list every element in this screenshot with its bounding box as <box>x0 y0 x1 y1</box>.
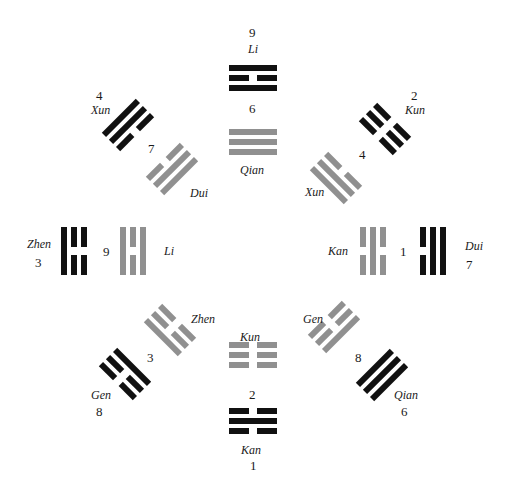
label-s-inner-number: 2 <box>249 388 256 401</box>
trigram-outer-ne <box>359 103 411 155</box>
label-nw-inner-name: Dui <box>190 187 208 199</box>
trigram-inner-se <box>308 301 360 353</box>
trigram-layer <box>0 0 506 491</box>
label-sw-number: 8 <box>96 405 103 418</box>
label-n-name: Li <box>248 43 258 55</box>
label-e-number: 7 <box>466 258 473 271</box>
label-se-inner-number: 8 <box>355 351 362 364</box>
label-e-inner-name: Kan <box>328 245 348 257</box>
label-e-name: Dui <box>465 240 483 252</box>
label-ne-inner-number: 4 <box>359 148 366 161</box>
trigram-outer-e <box>420 227 446 275</box>
label-se-inner-name: Gen <box>303 313 323 325</box>
trigram-inner-s <box>229 342 277 368</box>
label-n-number: 9 <box>249 26 256 39</box>
label-n-inner-name: Qian <box>240 164 264 176</box>
label-w-name: Zhen <box>27 238 51 250</box>
label-se-number: 6 <box>401 405 408 418</box>
label-ne-inner-name: Xun <box>305 186 324 198</box>
label-s-number: 1 <box>250 459 257 472</box>
label-se-name: Qian <box>394 389 418 401</box>
label-nw-number: 4 <box>96 89 103 102</box>
bagua-diagram: 9 Li 6 Qian 4 Xun 7 Dui 2 Kun 4 Xun Zhen… <box>0 0 506 491</box>
label-sw-inner-name: Zhen <box>191 313 215 325</box>
label-n-inner-number: 6 <box>249 102 256 115</box>
trigram-inner-n <box>229 129 277 155</box>
trigram-outer-n <box>229 65 277 91</box>
label-nw-name: Xun <box>91 104 110 116</box>
label-w-inner-number: 9 <box>103 245 110 258</box>
label-ne-name: Kun <box>405 104 425 116</box>
label-w-inner-name: Li <box>164 245 174 257</box>
label-ne-number: 2 <box>411 89 418 102</box>
label-sw-inner-number: 3 <box>147 351 154 364</box>
trigram-inner-w <box>120 227 146 275</box>
label-s-name: Kan <box>241 444 261 456</box>
label-s-inner-name: Kun <box>240 331 260 343</box>
label-w-number: 3 <box>35 256 42 269</box>
trigram-outer-w <box>61 227 87 275</box>
trigram-inner-e <box>360 227 386 275</box>
trigram-inner-sw <box>144 304 196 356</box>
label-e-inner-number: 1 <box>400 245 407 258</box>
label-sw-name: Gen <box>91 389 111 401</box>
label-nw-inner-number: 7 <box>148 142 155 155</box>
trigram-outer-s <box>229 408 277 434</box>
